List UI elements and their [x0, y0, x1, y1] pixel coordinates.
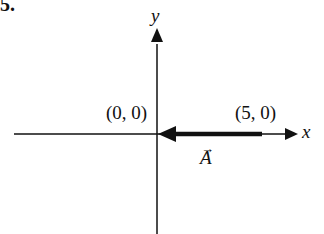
y-axis-arrowhead-icon — [151, 28, 163, 42]
tip-label: (5, 0) — [235, 103, 276, 123]
vector-a-arrowhead-icon — [158, 126, 176, 142]
origin-label: (0, 0) — [106, 103, 147, 123]
vector-a-label: → A — [200, 148, 212, 168]
vector-arrow-icon: → — [201, 139, 214, 159]
x-axis-label: x — [302, 122, 310, 142]
y-axis-label: y — [151, 6, 159, 26]
x-axis-arrowhead-icon — [285, 128, 298, 140]
